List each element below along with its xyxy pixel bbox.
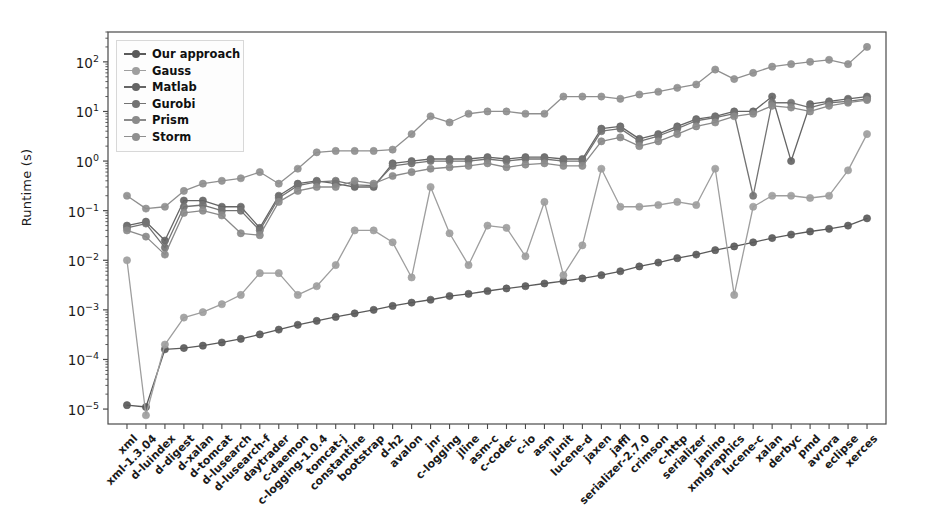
data-point [617,95,624,102]
data-point [256,270,263,277]
data-point [465,261,472,268]
data-point [313,149,320,156]
data-point [731,113,738,120]
data-point [465,110,472,117]
legend-item-label: Our approach [152,47,240,61]
data-point [294,321,301,328]
data-point [788,61,795,68]
data-point [750,69,757,76]
data-point [636,91,643,98]
data-point [750,239,757,246]
data-point [446,230,453,237]
data-point [218,212,225,219]
data-point [199,180,206,187]
data-point [370,227,377,234]
data-point [256,331,263,338]
legend-item[interactable]: Our approach [124,46,236,63]
legend-marker-icon [124,98,146,110]
legend-item[interactable]: Matlab [124,79,236,96]
data-point [484,222,491,229]
data-point [844,61,851,68]
data-point [712,66,719,73]
data-point [161,341,168,348]
data-point [788,231,795,238]
data-point [465,162,472,169]
data-point [237,207,244,214]
data-point [825,225,832,232]
data-point [389,146,396,153]
data-point [712,119,719,126]
data-point [674,255,681,262]
y-tick-label: 102 [76,53,99,71]
data-point [579,275,586,282]
data-point [655,88,662,95]
y-tick-label: 101 [76,103,99,121]
data-point [769,102,776,109]
legend-item-label: Storm [152,130,191,144]
data-point [199,309,206,316]
data-point [484,108,491,115]
data-point [674,130,681,137]
chart-legend: Our approachGaussMatlabGurobiPrismStorm [116,40,244,152]
data-point [560,93,567,100]
data-point [693,201,700,208]
data-point [731,243,738,250]
data-point [332,183,339,190]
data-point [389,302,396,309]
data-point [674,84,681,91]
data-point [617,125,624,132]
data-point [693,81,700,88]
data-point [275,180,282,187]
data-point [522,161,529,168]
data-point [389,172,396,179]
data-point [825,102,832,109]
legend-item[interactable]: Prism [124,112,236,129]
legend-marker-icon [124,81,146,93]
data-point [123,192,130,199]
data-point [237,230,244,237]
legend-item[interactable]: Storm [124,129,236,146]
data-point [465,290,472,297]
data-point [541,198,548,205]
legend-item[interactable]: Gauss [124,63,236,80]
data-point [560,162,567,169]
legend-marker-icon [124,131,146,143]
y-tick-label: 10−3 [68,301,99,319]
legend-marker-icon [124,65,146,77]
data-point [807,194,814,201]
data-point [712,165,719,172]
data-point [332,261,339,268]
data-point [617,203,624,210]
y-tick-label: 10−1 [68,202,99,220]
data-point [408,299,415,306]
data-point [844,99,851,106]
data-point [408,274,415,281]
data-point [655,259,662,266]
data-point [579,162,586,169]
data-point [237,175,244,182]
data-point [731,75,738,82]
data-point [484,287,491,294]
legend-item[interactable]: Gurobi [124,96,236,113]
data-point [408,168,415,175]
data-point [503,108,510,115]
data-point [598,93,605,100]
data-point [408,160,415,167]
data-point [123,402,130,409]
data-point [825,56,832,63]
data-point [598,272,605,279]
data-point [427,157,434,164]
data-point [750,192,757,199]
y-tick-label: 10−4 [68,351,99,369]
data-point [180,314,187,321]
data-point [769,192,776,199]
data-point [446,292,453,299]
data-point [313,317,320,324]
data-point [370,147,377,154]
data-point [427,183,434,190]
data-point [674,198,681,205]
data-point [256,168,263,175]
data-point [161,251,168,258]
y-axis-label: Runtime (s) [19,98,34,278]
data-point [750,203,757,210]
